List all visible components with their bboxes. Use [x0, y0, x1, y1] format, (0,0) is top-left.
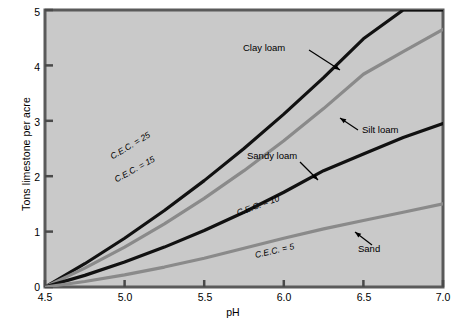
y-tick-label: 3	[18, 116, 40, 128]
chart-canvas	[0, 0, 466, 325]
annotation-sand: Sand	[358, 243, 380, 254]
annotation-sandy-loam: Sandy loam	[247, 150, 297, 161]
y-tick-label: 4	[18, 61, 40, 73]
x-axis-label: pH	[0, 306, 466, 318]
x-tick-label: 6.5	[344, 291, 384, 303]
x-tick-label: 5.0	[105, 291, 145, 303]
annotation-clay-loam: Clay loam	[243, 42, 285, 53]
x-tick-label: 6.0	[264, 291, 304, 303]
x-tick-label: 7.0	[423, 291, 463, 303]
annotation-silt-loam: Silt loam	[362, 124, 398, 135]
chart-figure: Tons limestone per acre pH 4.5 5.0 5.5 6…	[0, 0, 466, 325]
y-tick-label: 2	[18, 171, 40, 183]
y-tick-label: 0	[18, 281, 40, 293]
y-tick-label: 5	[18, 6, 40, 18]
y-tick-label: 1	[18, 226, 40, 238]
y-axis-label: Tons limestone per acre	[20, 84, 32, 224]
x-tick-label: 5.5	[185, 291, 225, 303]
